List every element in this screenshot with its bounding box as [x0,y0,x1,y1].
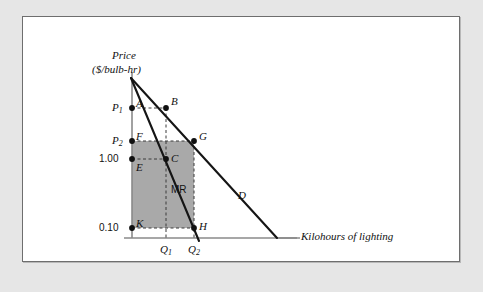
point-g-dot [191,138,197,144]
point-label-a: A [136,98,143,109]
y-axis-title-line1: Price [112,50,136,61]
y-tick-p2: P2 [112,135,123,148]
point-p1-dot [129,105,135,111]
point-label-g: G [199,131,207,142]
point-h-dot [191,225,197,231]
point-label-h: H [199,221,207,232]
y-tick-p1: P1 [112,102,123,115]
y-axis-title-line2: ($/bulb-hr) [92,64,141,75]
point-b-dot [163,105,169,111]
point-c-dot [163,156,169,162]
curve-label-marginal-revenue: MR [171,185,187,195]
point-e-dot [129,156,135,162]
point-label-k: K [136,218,143,229]
curve-label-demand: D [238,190,246,201]
point-label-b: B [171,96,178,107]
diagram-canvas [0,0,483,292]
point-label-f: F [136,131,143,142]
y-tick-010: 0.10 [99,223,118,233]
figure-root: Price ($/bulb-hr) Kilohours of lighting … [0,0,483,292]
point-k-dot [129,225,135,231]
x-tick-q2: Q2 [188,244,200,257]
point-label-c: C [171,153,178,164]
x-axis-title: Kilohours of lighting [301,231,393,242]
y-tick-100: 1.00 [99,154,118,164]
point-p2-dot [129,138,135,144]
point-label-e: E [136,162,143,173]
x-tick-q1: Q1 [160,244,172,257]
